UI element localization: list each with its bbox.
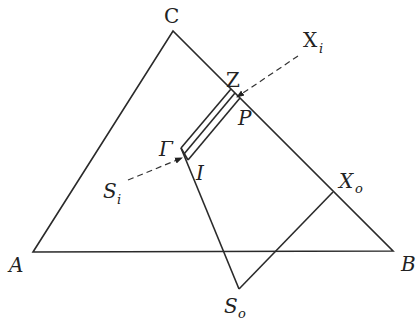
geometry-diagram: C A B Z P Γ I X i S i X o S o bbox=[0, 0, 419, 329]
label-z: Z bbox=[226, 68, 240, 92]
strip-line-inner bbox=[188, 98, 240, 160]
label-a: A bbox=[7, 253, 23, 277]
label-xo-sub: o bbox=[355, 181, 363, 196]
label-so-sub: o bbox=[238, 306, 246, 321]
label-xo: X bbox=[337, 169, 354, 193]
label-b: B bbox=[400, 252, 416, 276]
label-gamma: Γ bbox=[158, 137, 174, 161]
xi-arrow bbox=[237, 56, 298, 97]
strip-line-middle bbox=[184, 93, 235, 154]
label-p: P bbox=[237, 106, 252, 130]
segment-so-xo bbox=[239, 192, 333, 289]
label-si-sub: i bbox=[117, 192, 121, 207]
label-so: S bbox=[224, 294, 238, 318]
segment-gamma-so bbox=[181, 148, 239, 289]
label-xi-sub: i bbox=[319, 41, 323, 56]
label-i: I bbox=[195, 161, 205, 185]
triangle-abc bbox=[33, 31, 393, 252]
label-xi: X bbox=[303, 28, 318, 52]
label-c: C bbox=[164, 4, 179, 28]
label-si: S bbox=[103, 179, 117, 203]
si-arrow bbox=[128, 158, 182, 180]
